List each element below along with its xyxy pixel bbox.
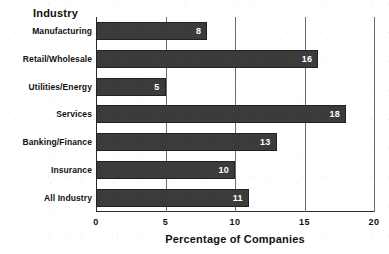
- category-label: Manufacturing: [32, 26, 92, 36]
- bar-row: Banking/Finance13: [96, 128, 374, 156]
- plot-area: Manufacturing8Retail/Wholesale16Utilitie…: [96, 17, 374, 212]
- gridline: [374, 17, 375, 212]
- bar: 10: [96, 161, 235, 179]
- bar-value-label: 5: [154, 82, 159, 91]
- x-tick-label: 20: [369, 217, 380, 227]
- bar-row: Manufacturing8: [96, 17, 374, 45]
- bar-row: Insurance10: [96, 156, 374, 184]
- x-tick-label: 0: [93, 217, 98, 227]
- bar: 18: [96, 105, 346, 123]
- chart-figure: Industry Manufacturing8Retail/Wholesale1…: [0, 0, 389, 254]
- category-label: Utilities/Energy: [29, 82, 92, 92]
- x-tick-label: 15: [299, 217, 310, 227]
- category-label: Insurance: [51, 165, 92, 175]
- category-label: Banking/Finance: [22, 137, 92, 147]
- bar: 5: [96, 78, 166, 96]
- bar-row: Utilities/Energy5: [96, 73, 374, 101]
- bar: 11: [96, 189, 249, 207]
- bar-row: Retail/Wholesale16: [96, 45, 374, 73]
- x-tick-label: 5: [163, 217, 168, 227]
- y-axis-title: Industry: [33, 7, 78, 19]
- bar: 8: [96, 22, 207, 40]
- bar: 13: [96, 133, 277, 151]
- category-label: Retail/Wholesale: [23, 54, 92, 64]
- x-tick-label: 10: [230, 217, 241, 227]
- bar-value-label: 11: [233, 194, 243, 203]
- bar-row: All Industry11: [96, 184, 374, 212]
- bar-value-label: 16: [302, 54, 313, 63]
- bar-value-label: 18: [330, 110, 341, 119]
- bar-row: Services18: [96, 101, 374, 129]
- category-label: Services: [56, 109, 92, 119]
- bar: 16: [96, 50, 318, 68]
- bar-value-label: 10: [218, 166, 229, 175]
- category-label: All Industry: [44, 193, 92, 203]
- x-axis-title: Percentage of Companies: [96, 233, 374, 245]
- bar-value-label: 13: [260, 138, 271, 147]
- bar-value-label: 8: [196, 26, 201, 35]
